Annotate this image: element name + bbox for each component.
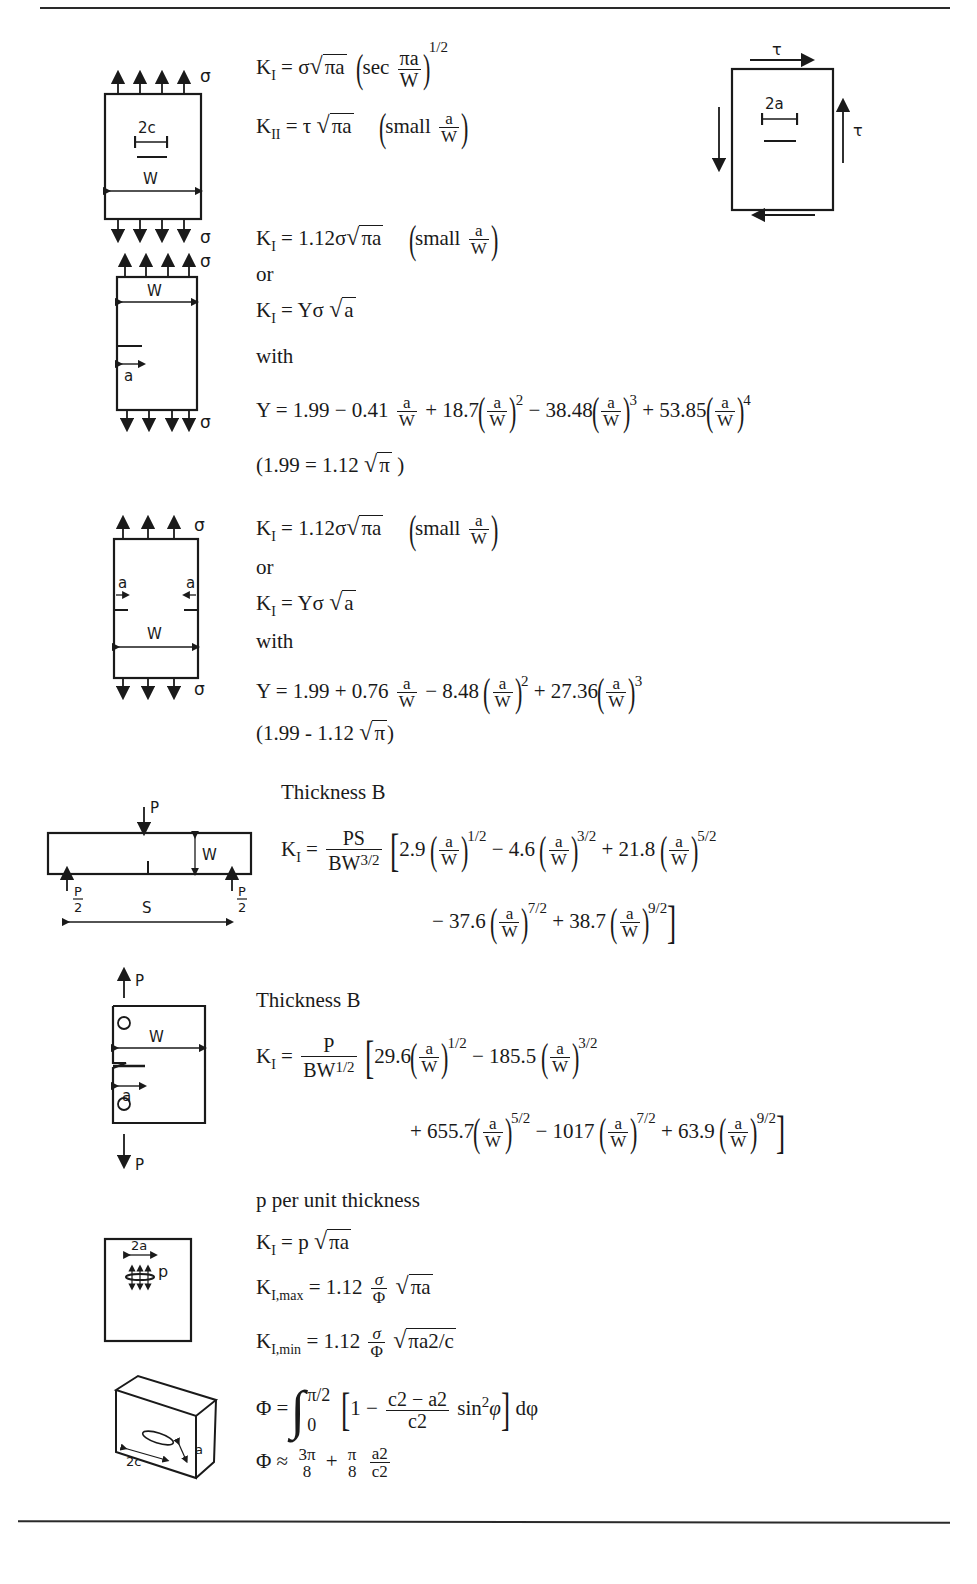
crack-depth-label: a — [124, 367, 133, 385]
support-left-num: P — [74, 884, 82, 899]
shear-crack-label: 2a — [765, 95, 784, 113]
crack-left-label: a — [118, 574, 127, 592]
or-text: or — [256, 264, 274, 285]
or-text: or — [256, 557, 274, 578]
width-label: W — [147, 625, 162, 643]
width-label: W — [147, 282, 162, 300]
note-1-99-double-edge: (1.99 - 1.12 √π) — [256, 720, 394, 744]
top-rule — [40, 7, 950, 9]
eq-ki-ct-row1: KI = PBW1/2 [29.6(aW)1/2 − 185.5 (aW)3/2 — [256, 1035, 598, 1081]
width-label: W — [202, 846, 217, 864]
eq-phi-integral: Φ =∫π/20 [1 − c2 − a2c2 sin2φ] dφ — [256, 1380, 538, 1440]
crack-right-label: a — [186, 574, 195, 592]
sigma-bottom-label: σ — [200, 227, 211, 247]
sigma-top-label: σ — [194, 515, 205, 535]
thickness-label: Thickness B — [281, 782, 385, 803]
eq-ki-center-crack: KI = σ√πa (sec πaW)1/2 — [256, 40, 448, 91]
eq-ki-bend-row1: KI = PSBW3/2 [2.9 (aW)1/2 − 4.6 (aW)3/2 … — [281, 828, 716, 874]
eq-ki-max: KI,max = 1.12 σΦ √πa — [256, 1271, 433, 1307]
crack-length-label: 2c — [138, 119, 156, 137]
width-label: W — [149, 1028, 164, 1046]
pressurized-crack-diagram: 2a p — [100, 1235, 200, 1345]
eq-ki-edge-small: KI = 1.12σ√πa (small aW) — [256, 220, 497, 260]
eq-ki-ct-row2: + 655.7(aW)5/2 − 1017 (aW)7/2 + 63.9 (aW… — [410, 1110, 785, 1156]
note-1-99-edge: (1.99 = 1.12 √π ) — [256, 452, 404, 476]
support-right-den: 2 — [238, 900, 246, 915]
center-cracked-plate-tension-diagram: 2c W σ σ — [100, 65, 220, 245]
eq-ki-double-edge-y: KI = Yσ √a — [256, 590, 356, 619]
support-left-den: 2 — [74, 900, 82, 915]
center-cracked-plate-shear-diagram: 2a τ τ — [700, 45, 860, 225]
semi-elliptical-surface-crack-diagram: 2c a — [110, 1370, 220, 1480]
thickness-label: Thickness B — [256, 990, 360, 1011]
eq-ki-pressure: KI = p √πa — [256, 1229, 351, 1258]
sigma-bottom-label: σ — [194, 679, 205, 699]
eq-ki-bend-row2: − 37.6 (aW)7/2 + 38.7 (aW)9/2] — [432, 900, 677, 946]
eq-y-double-edge: Y = 1.99 + 0.76 aW − 8.48 (aW)2 + 27.36(… — [256, 673, 642, 713]
with-text: with — [256, 346, 293, 367]
p-per-unit-thickness-label: p per unit thickness — [256, 1190, 420, 1211]
span-label: S — [142, 899, 152, 917]
eq-kii-center-crack: KII = τ √πa (small aW) — [256, 108, 467, 148]
sigma-bottom-label: σ — [200, 412, 211, 432]
eq-y-edge: Y = 1.99 − 0.41 aW + 18.7(aW)2 − 38.48(a… — [256, 392, 751, 432]
double-edge-cracked-plate-diagram: a a W σ σ — [110, 515, 220, 695]
load-p-label: P — [150, 799, 159, 817]
edge-cracked-plate-diagram: W a σ σ — [100, 250, 220, 430]
load-top-label: P — [135, 972, 144, 990]
eq-phi-approx: Φ ≈ 3π8 + π8 a2c2 — [256, 1445, 393, 1481]
eq-ki-double-edge-small: KI = 1.12σ√πa (small aW) — [256, 510, 497, 550]
pressure-label: p — [158, 1262, 168, 1281]
eq-ki-edge-y: KI = Yσ √a — [256, 297, 356, 326]
crack-length-label: 2a — [131, 1238, 147, 1253]
eq-ki-min: KI,min = 1.12 σΦ √πa2/c — [256, 1325, 456, 1361]
with-text: with — [256, 631, 293, 652]
width-label: W — [143, 170, 158, 188]
support-right-num: P — [238, 884, 246, 899]
tau-right-label: τ — [853, 121, 863, 140]
sigma-top-label: σ — [200, 66, 211, 86]
bottom-rule — [18, 1520, 950, 1524]
sigma-top-label: σ — [200, 251, 211, 271]
load-bottom-label: P — [135, 1156, 144, 1174]
three-point-bend-specimen-diagram: P W P 2 P 2 S — [40, 795, 260, 935]
compact-tension-specimen-diagram: P P W a — [105, 968, 220, 1178]
integral-sign-icon: ∫ — [290, 1383, 305, 1437]
crack-depth-label: a — [195, 1442, 203, 1457]
tau-top-label: τ — [772, 40, 782, 59]
crack-depth-label: a — [122, 1087, 131, 1105]
crack-length-label: 2c — [126, 1454, 141, 1469]
